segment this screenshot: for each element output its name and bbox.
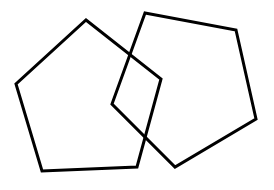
left-pentagon	[16, 20, 161, 171]
right-pentagon	[112, 13, 256, 167]
diagram-canvas	[0, 0, 274, 190]
